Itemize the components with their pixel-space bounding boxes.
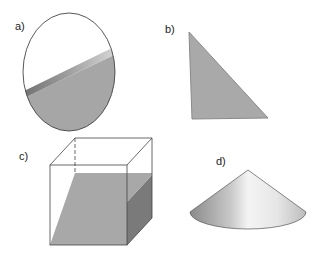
ellipse-fill-region: [20, 52, 120, 135]
label-b: b): [165, 23, 175, 35]
triangle-shape: [189, 32, 268, 119]
label-c: c): [19, 150, 28, 162]
cube-top-edges: [50, 138, 152, 165]
label-d: d): [216, 155, 226, 167]
figure-d-cone: [190, 170, 306, 229]
cone-shape: [190, 170, 306, 229]
figure-c-cube: [50, 138, 152, 245]
diagram-canvas: [0, 0, 321, 258]
figure-a-ellipse: [20, 13, 120, 135]
label-a: a): [15, 20, 25, 32]
figure-b-triangle: [189, 32, 268, 119]
